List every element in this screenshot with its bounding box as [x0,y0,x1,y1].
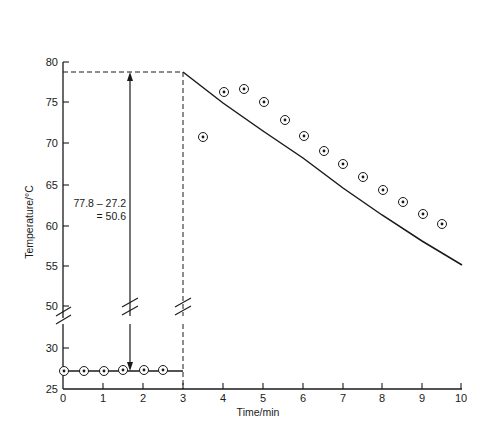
x-tick-label: 4 [220,392,226,404]
delta-t-annotation-line2: = 50.6 [97,210,127,222]
arrow-up-icon [127,72,133,81]
x-tick-label: 5 [260,392,266,404]
y-ticks [63,62,69,348]
data-point-marker [140,366,149,375]
y-tick-label: 30 [46,342,58,354]
y-tick-label: 65 [46,179,58,191]
delta-t-annotation-line1: 77.8 – 27.2 [73,197,126,209]
data-point-marker [320,147,329,156]
y-tick-label: 50 [46,300,58,312]
x-tick-label: 2 [140,392,146,404]
y-axis-title: Temperature/°C [23,185,35,259]
y-tick-label: 75 [46,96,58,108]
data-point-marker [80,367,89,376]
data-point-marker [339,160,348,169]
data-point-marker [159,366,168,375]
data-point-marker [438,220,447,229]
x-tick-label: 0 [60,392,66,404]
x-tick-label: 3 [180,392,186,404]
data-point-marker [260,98,269,107]
y-tick-label: 55 [46,260,58,272]
data-point-marker [100,367,109,376]
data-point-marker [240,85,249,94]
data-point-marker [60,367,69,376]
data-point-marker [119,366,128,375]
data-point-marker [281,116,290,125]
x-tick-label: 9 [419,392,425,404]
data-point-marker [220,88,229,97]
x-tick-label: 7 [340,392,346,404]
data-point-marker [300,132,309,141]
series-after-mixing [199,85,447,229]
x-axis-title: Time/min [237,406,280,418]
y-tick-label: 25 [46,383,58,395]
data-point-marker [359,173,368,182]
data-point-marker [399,198,408,207]
x-ticks [103,383,461,389]
x-tick-label: 6 [300,392,306,404]
x-tick-label: 10 [455,392,467,404]
temperature-time-chart: 80 75 70 65 60 55 50 30 25 0 1 2 3 4 5 6… [0,0,484,434]
x-tick-label: 8 [379,392,385,404]
data-point-marker [419,210,428,219]
y-tick-label: 70 [46,137,58,149]
x-tick-label: 1 [100,392,106,404]
y-tick-label: 60 [46,220,58,232]
data-point-marker [199,133,208,142]
cooling-fit-curve [183,72,462,265]
data-point-marker [379,186,388,195]
y-tick-label: 80 [46,56,58,68]
